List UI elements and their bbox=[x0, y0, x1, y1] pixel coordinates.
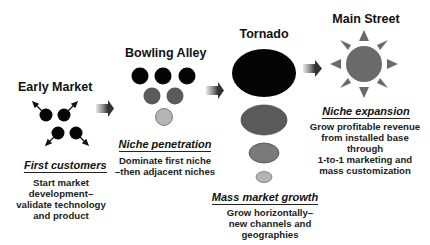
early-market-dots-icon bbox=[33, 102, 88, 145]
description-line: development– bbox=[10, 188, 112, 199]
stage-subtitle-wrap: Niche penetration bbox=[115, 134, 215, 152]
stage-title-bowling-alley: Bowling Alley bbox=[125, 46, 205, 60]
description-line: through bbox=[303, 143, 427, 154]
stage-subtitle-mass-market-growth: Mass market growth bbox=[212, 191, 318, 205]
stage-subtitle-niche-expansion: Niche expansion bbox=[322, 105, 409, 119]
stage-description-main-street: Grow profitable revenue from installed b… bbox=[303, 121, 427, 176]
stage-description-tornado: Grow horizontally– new channels and geog… bbox=[205, 207, 335, 240]
description-line: Grow horizontally– bbox=[205, 207, 335, 218]
stage-subtitle-first-customers: First customers bbox=[24, 159, 107, 173]
stage-description-early-market: Start market development– validate techn… bbox=[10, 177, 112, 221]
description-line: new channels and geographies bbox=[205, 218, 335, 240]
arrow-right-icon bbox=[206, 82, 224, 99]
description-line: Dominate first niche bbox=[110, 155, 220, 166]
tornado-ellipses-icon bbox=[232, 49, 296, 183]
stage-title-early-market: Early Market bbox=[18, 80, 88, 94]
description-line: –then adjacent niches bbox=[110, 166, 220, 177]
stage-title-tornado: Tornado bbox=[234, 27, 294, 41]
arrow-right-icon bbox=[303, 60, 322, 77]
description-line: Grow profitable revenue bbox=[303, 121, 427, 132]
stage-subtitle-niche-penetration: Niche penetration bbox=[119, 138, 212, 152]
arrow-right-icon bbox=[96, 100, 114, 117]
stage-subtitle-wrap: Niche expansion bbox=[318, 101, 414, 119]
description-line: validate technology bbox=[10, 199, 112, 210]
bowling-alley-pins-icon bbox=[132, 68, 196, 126]
description-line: and product bbox=[10, 210, 112, 221]
stage-description-bowling-alley: Dominate first niche –then adjacent nich… bbox=[110, 155, 220, 177]
stage-subtitle-wrap: First customers bbox=[24, 155, 98, 173]
stage-title-main-street: Main Street bbox=[329, 12, 403, 26]
description-line: mass customization bbox=[303, 165, 427, 176]
main-street-sun-icon bbox=[330, 30, 398, 98]
description-line: 1-to-1 marketing and bbox=[303, 154, 427, 165]
description-line: from installed base bbox=[303, 132, 427, 143]
description-line: Start market bbox=[10, 177, 112, 188]
stage-subtitle-wrap: Mass market growth bbox=[210, 187, 320, 205]
